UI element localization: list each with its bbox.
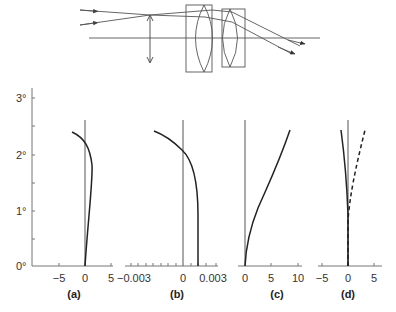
- tick-c-0: 0: [242, 272, 248, 284]
- y-axis: 3° 2° 1° 0°: [16, 88, 35, 272]
- tick-d-0: −5: [316, 272, 329, 284]
- curve-a: [72, 132, 92, 266]
- curve-c: [245, 130, 290, 266]
- lens-1: [186, 5, 213, 72]
- figure-canvas: 3° 2° 1° 0° −5 0 5 (a) −0.003 0 0.003: [0, 0, 396, 312]
- panel-d: −5 0 5 (d): [316, 120, 382, 300]
- tick-b-1: 0: [180, 272, 186, 284]
- tick-b-2: 0.003: [199, 272, 227, 284]
- y-label-3: 3°: [16, 92, 27, 104]
- y-label-2: 2°: [16, 149, 27, 161]
- panel-c: 0 5 10 (c): [238, 120, 304, 300]
- tick-c-1: 5: [268, 272, 274, 284]
- caption-d: (d): [341, 288, 355, 300]
- tick-a-2: 5: [108, 272, 114, 284]
- y-label-1: 1°: [16, 205, 27, 217]
- tick-d-2: 5: [371, 272, 377, 284]
- tick-b-0: −0.003: [117, 272, 151, 284]
- optical-layout: [80, 5, 320, 72]
- curve-b: [154, 131, 198, 266]
- tick-a-1: 0: [82, 272, 88, 284]
- ray-lower: [80, 15, 295, 54]
- panel-b: −0.003 0 0.003 (b): [117, 120, 227, 300]
- aperture-stop-arrow: [147, 15, 153, 63]
- curve-d-solid: [341, 130, 348, 266]
- curve-d-dashed: [348, 130, 365, 266]
- caption-a: (a): [67, 288, 81, 300]
- y-label-0: 0°: [16, 260, 27, 272]
- panel-a: −5 0 5 (a): [32, 120, 114, 300]
- ray-upper: [80, 10, 305, 46]
- caption-c: (c): [270, 288, 284, 300]
- caption-b: (b): [170, 288, 184, 300]
- tick-d-1: 0: [345, 272, 351, 284]
- tick-c-2: 10: [292, 272, 304, 284]
- tick-a-0: −5: [53, 272, 66, 284]
